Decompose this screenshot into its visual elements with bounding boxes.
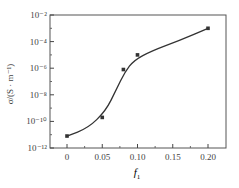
- y-tick-label: 10⁻⁶: [30, 63, 47, 73]
- y-tick-label: 10⁻⁸: [30, 90, 47, 100]
- x-tick-label: 0.05: [94, 152, 110, 162]
- data-point: [100, 116, 104, 120]
- y-tick-label: 10⁻⁴: [30, 37, 47, 47]
- x-tick-label: 0: [65, 152, 70, 162]
- data-point: [122, 68, 126, 72]
- y-tick-label: 10⁻¹⁰: [26, 116, 47, 126]
- x-tick-label: 0.15: [165, 152, 181, 162]
- y-axis-label: σ/(S · m⁻¹): [5, 64, 15, 105]
- data-points: [65, 27, 210, 138]
- y-tick-label: 10⁻¹²: [28, 143, 48, 153]
- data-point: [136, 53, 140, 57]
- plot-frame: [50, 15, 226, 148]
- y-tick-label: 10⁻²: [30, 10, 47, 20]
- data-point: [206, 27, 210, 31]
- x-tick-label: 0.10: [130, 152, 146, 162]
- x-axis-label: f1: [134, 166, 141, 181]
- data-point: [65, 134, 69, 138]
- conductivity-chart: 10⁻²10⁻⁴10⁻⁶10⁻⁸10⁻¹⁰10⁻¹² 00.050.100.15…: [0, 0, 239, 188]
- x-axis: 00.050.100.150.20: [65, 144, 217, 162]
- x-tick-label: 0.20: [200, 152, 216, 162]
- fit-curve: [67, 28, 208, 136]
